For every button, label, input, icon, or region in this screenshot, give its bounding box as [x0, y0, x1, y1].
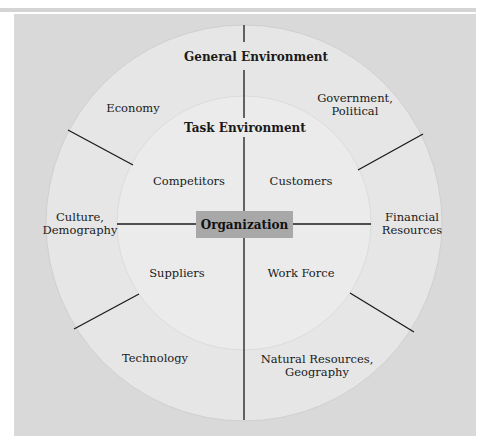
- organization-label: Organization: [201, 218, 289, 232]
- label-government-political: Government, Political: [300, 92, 410, 118]
- task-environment-title: Task Environment: [184, 122, 304, 135]
- organization-box: Organization: [196, 211, 293, 238]
- label-technology: Technology: [110, 352, 200, 365]
- label-natural-resources-geography: Natural Resources, Geography: [252, 353, 382, 379]
- label-financial-resources: Financial Resources: [372, 211, 452, 237]
- label-suppliers: Suppliers: [132, 267, 222, 280]
- label-economy: Economy: [98, 102, 168, 115]
- general-environment-title: General Environment: [184, 51, 304, 64]
- label-competitors: Competitors: [144, 175, 234, 188]
- label-work-force: Work Force: [256, 267, 346, 280]
- label-customers: Customers: [256, 175, 346, 188]
- label-culture-demography: Culture, Demography: [40, 211, 120, 237]
